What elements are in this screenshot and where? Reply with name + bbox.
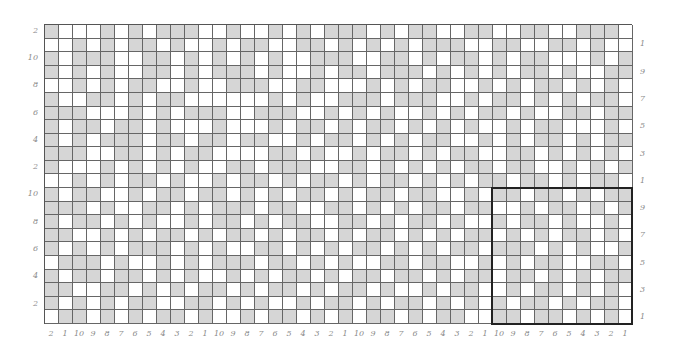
grid-cell[interactable] bbox=[73, 215, 87, 229]
grid-cell[interactable] bbox=[45, 134, 59, 148]
grid-cell[interactable] bbox=[423, 174, 437, 188]
grid-cell[interactable] bbox=[311, 79, 325, 93]
grid-cell[interactable] bbox=[577, 229, 591, 243]
grid-cell[interactable] bbox=[535, 52, 549, 66]
grid-cell[interactable] bbox=[395, 202, 409, 216]
grid-cell[interactable] bbox=[437, 39, 451, 53]
grid-cell[interactable] bbox=[213, 25, 227, 39]
grid-cell[interactable] bbox=[535, 79, 549, 93]
grid-cell[interactable] bbox=[591, 52, 605, 66]
grid-cell[interactable] bbox=[45, 161, 59, 175]
grid-cell[interactable] bbox=[297, 310, 311, 324]
grid-cell[interactable] bbox=[381, 25, 395, 39]
grid-cell[interactable] bbox=[591, 215, 605, 229]
grid-cell[interactable] bbox=[465, 66, 479, 80]
grid-cell[interactable] bbox=[297, 283, 311, 297]
grid-cell[interactable] bbox=[605, 270, 619, 284]
grid-cell[interactable] bbox=[521, 25, 535, 39]
grid-cell[interactable] bbox=[213, 161, 227, 175]
grid-cell[interactable] bbox=[115, 120, 129, 134]
grid-cell[interactable] bbox=[437, 283, 451, 297]
grid-cell[interactable] bbox=[521, 93, 535, 107]
grid-cell[interactable] bbox=[507, 256, 521, 270]
grid-cell[interactable] bbox=[577, 161, 591, 175]
grid-cell[interactable] bbox=[269, 310, 283, 324]
grid-cell[interactable] bbox=[45, 79, 59, 93]
grid-cell[interactable] bbox=[325, 188, 339, 202]
grid-cell[interactable] bbox=[87, 242, 101, 256]
grid-cell[interactable] bbox=[605, 256, 619, 270]
grid-cell[interactable] bbox=[521, 202, 535, 216]
grid-cell[interactable] bbox=[507, 79, 521, 93]
grid-cell[interactable] bbox=[451, 270, 465, 284]
grid-cell[interactable] bbox=[563, 25, 577, 39]
grid-cell[interactable] bbox=[451, 310, 465, 324]
grid-cell[interactable] bbox=[157, 93, 171, 107]
grid-cell[interactable] bbox=[423, 93, 437, 107]
grid-cell[interactable] bbox=[465, 107, 479, 121]
grid-cell[interactable] bbox=[577, 52, 591, 66]
grid-cell[interactable] bbox=[283, 120, 297, 134]
grid-cell[interactable] bbox=[493, 147, 507, 161]
grid-cell[interactable] bbox=[325, 52, 339, 66]
grid-cell[interactable] bbox=[199, 25, 213, 39]
grid-cell[interactable] bbox=[395, 188, 409, 202]
grid-cell[interactable] bbox=[381, 202, 395, 216]
grid-cell[interactable] bbox=[535, 188, 549, 202]
grid-cell[interactable] bbox=[45, 215, 59, 229]
grid-cell[interactable] bbox=[409, 25, 423, 39]
grid-cell[interactable] bbox=[493, 52, 507, 66]
grid-cell[interactable] bbox=[129, 161, 143, 175]
grid-cell[interactable] bbox=[437, 188, 451, 202]
grid-cell[interactable] bbox=[577, 174, 591, 188]
grid-cell[interactable] bbox=[591, 107, 605, 121]
grid-cell[interactable] bbox=[423, 79, 437, 93]
grid-cell[interactable] bbox=[171, 297, 185, 311]
grid-cell[interactable] bbox=[577, 188, 591, 202]
grid-cell[interactable] bbox=[591, 174, 605, 188]
grid-cell[interactable] bbox=[437, 93, 451, 107]
grid-cell[interactable] bbox=[381, 79, 395, 93]
grid-cell[interactable] bbox=[521, 283, 535, 297]
grid-cell[interactable] bbox=[339, 161, 353, 175]
grid-cell[interactable] bbox=[143, 215, 157, 229]
grid-cell[interactable] bbox=[283, 25, 297, 39]
grid-cell[interactable] bbox=[213, 107, 227, 121]
grid-cell[interactable] bbox=[367, 174, 381, 188]
grid-cell[interactable] bbox=[381, 256, 395, 270]
grid-cell[interactable] bbox=[297, 107, 311, 121]
grid-cell[interactable] bbox=[591, 256, 605, 270]
grid-cell[interactable] bbox=[409, 120, 423, 134]
grid-cell[interactable] bbox=[591, 202, 605, 216]
grid-cell[interactable] bbox=[465, 79, 479, 93]
grid-cell[interactable] bbox=[59, 120, 73, 134]
grid-cell[interactable] bbox=[577, 79, 591, 93]
grid-cell[interactable] bbox=[59, 270, 73, 284]
grid-cell[interactable] bbox=[563, 297, 577, 311]
grid-cell[interactable] bbox=[549, 39, 563, 53]
grid-cell[interactable] bbox=[241, 174, 255, 188]
grid-cell[interactable] bbox=[353, 66, 367, 80]
grid-cell[interactable] bbox=[241, 215, 255, 229]
grid-cell[interactable] bbox=[185, 52, 199, 66]
grid-cell[interactable] bbox=[199, 188, 213, 202]
grid-cell[interactable] bbox=[101, 310, 115, 324]
grid-cell[interactable] bbox=[465, 39, 479, 53]
grid-cell[interactable] bbox=[283, 52, 297, 66]
grid-cell[interactable] bbox=[101, 161, 115, 175]
grid-cell[interactable] bbox=[325, 256, 339, 270]
grid-cell[interactable] bbox=[367, 242, 381, 256]
grid-cell[interactable] bbox=[143, 174, 157, 188]
grid-cell[interactable] bbox=[521, 161, 535, 175]
grid-cell[interactable] bbox=[605, 147, 619, 161]
grid-cell[interactable] bbox=[367, 79, 381, 93]
grid-cell[interactable] bbox=[143, 39, 157, 53]
grid-cell[interactable] bbox=[451, 120, 465, 134]
grid-cell[interactable] bbox=[199, 161, 213, 175]
grid-cell[interactable] bbox=[563, 120, 577, 134]
grid-cell[interactable] bbox=[437, 215, 451, 229]
grid-cell[interactable] bbox=[465, 188, 479, 202]
grid-cell[interactable] bbox=[381, 310, 395, 324]
grid-cell[interactable] bbox=[297, 79, 311, 93]
grid-cell[interactable] bbox=[45, 66, 59, 80]
